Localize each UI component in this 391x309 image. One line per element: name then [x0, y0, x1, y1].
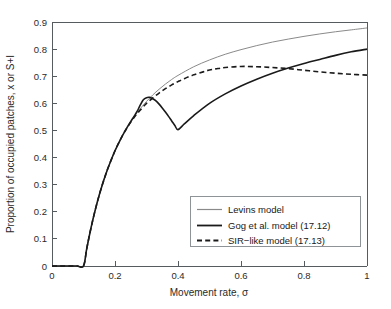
chart-canvas: 0 0.1 0.2 0.3 0.4 0.5 0.6 0.7 0.8 0.9 0 … — [0, 0, 391, 309]
legend: Levins model Gog et al. model (17.12) SI… — [191, 197, 361, 247]
legend-label-levins: Levins model — [228, 204, 284, 215]
y-tick-label-6: 0.6 — [34, 98, 47, 109]
y-tick-label-5: 0.5 — [34, 125, 47, 136]
y-tick-label-8: 0.8 — [34, 44, 47, 55]
y-tick-label-3: 0.3 — [34, 179, 47, 190]
legend-label-gog: Gog et al. model (17.12) — [228, 220, 330, 231]
x-tick-label-5: 1 — [364, 270, 369, 281]
y-tick-label-2: 0.2 — [34, 206, 47, 217]
x-axis-title: Movement rate, σ — [170, 287, 249, 298]
y-tick-label-1: 0.1 — [34, 233, 47, 244]
legend-label-sir-like: SIR−like model (17.13) — [228, 235, 325, 246]
y-tick-label-9: 0.9 — [34, 17, 47, 28]
figure-container: 0 0.1 0.2 0.3 0.4 0.5 0.6 0.7 0.8 0.9 0 … — [0, 0, 391, 309]
x-tick-label-1: 0.2 — [108, 270, 121, 281]
y-tick-label-7: 0.7 — [34, 71, 47, 82]
x-tick-label-4: 0.8 — [297, 270, 310, 281]
y-tick-marks — [52, 22, 57, 266]
x-tick-marks — [52, 261, 367, 266]
y-tick-label-4: 0.4 — [34, 152, 47, 163]
y-tick-label-0: 0 — [42, 261, 47, 272]
y-axis-title: Proportion of occupied patches, x or S+I — [5, 55, 16, 233]
x-tick-label-2: 0.4 — [171, 270, 184, 281]
x-tick-label-0: 0 — [49, 270, 54, 281]
x-tick-label-3: 0.6 — [234, 270, 247, 281]
